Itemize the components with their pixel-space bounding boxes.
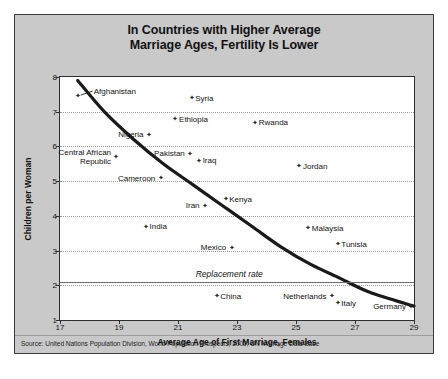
point-label-jordan: Jordan xyxy=(303,161,327,170)
replacement-rate-label: Replacement rate xyxy=(196,269,263,279)
point-label-pakistan: Pakistan xyxy=(154,149,185,158)
x-tick-label-25: 25 xyxy=(292,323,301,332)
point-label-central-african-republic: Central AfricanRepublic xyxy=(59,148,111,166)
point-marker xyxy=(305,225,310,230)
point-marker xyxy=(296,163,301,168)
point-label-italy: Italy xyxy=(341,298,356,307)
replacement-rate-line xyxy=(60,282,414,283)
point-marker xyxy=(113,154,118,159)
point-marker xyxy=(143,224,148,229)
point-marker xyxy=(223,196,228,201)
chart-title-line-1: In Countries with Higher Average xyxy=(15,23,433,38)
point-label-rwanda: Rwanda xyxy=(259,118,288,127)
point-label-malaysia: Malaysia xyxy=(312,224,344,233)
point-label-mexico: Mexico xyxy=(201,243,226,252)
point-marker xyxy=(252,120,257,125)
x-tick-label-21: 21 xyxy=(174,323,183,332)
point-label-cameroon: Cameroon xyxy=(118,173,155,182)
plot-area: 12345678 17192123252729 Replacement rate… xyxy=(59,76,415,321)
point-marker xyxy=(408,304,413,309)
point-label-kenya: Kenya xyxy=(229,194,252,203)
point-marker xyxy=(229,245,234,250)
point-marker xyxy=(196,158,201,163)
point-marker xyxy=(335,300,340,305)
chart-figure: In Countries with Higher Average Marriag… xyxy=(14,14,434,354)
x-tick-mark-23 xyxy=(237,320,238,324)
point-label-india: India xyxy=(150,222,167,231)
x-tick-label-23: 23 xyxy=(233,323,242,332)
point-label-afghanistan: Afghanistan xyxy=(94,87,136,96)
x-tick-mark-27 xyxy=(355,320,356,324)
point-marker xyxy=(187,151,192,156)
point-label-iraq: Iraq xyxy=(203,156,217,165)
point-label-germany: Germany xyxy=(373,302,406,311)
x-tick-label-29: 29 xyxy=(410,323,419,332)
point-marker xyxy=(75,93,80,98)
point-label-ethiopia: Ethiopia xyxy=(179,114,208,123)
chart-title-line-2: Marriage Ages, Fertility Is Lower xyxy=(15,38,433,53)
point-marker xyxy=(214,293,219,298)
x-tick-mark-17 xyxy=(60,320,61,324)
x-tick-label-19: 19 xyxy=(115,323,124,332)
point-marker xyxy=(189,95,194,100)
chart-title: In Countries with Higher Average Marriag… xyxy=(15,23,433,53)
source-note: Source: United Nations Population Divisi… xyxy=(15,335,433,356)
x-tick-mark-29 xyxy=(414,320,415,324)
point-marker xyxy=(146,132,151,137)
point-marker xyxy=(335,241,340,246)
x-tick-label-27: 27 xyxy=(351,323,360,332)
x-tick-mark-25 xyxy=(296,320,297,324)
point-label-syria: Syria xyxy=(195,93,213,102)
point-label-china: China xyxy=(220,291,241,300)
leader-line-path xyxy=(81,91,93,95)
point-label-netherlands: Netherlands xyxy=(283,291,326,300)
source-text: Source: United Nations Population Divisi… xyxy=(21,340,319,347)
y-axis-label-text: Children per Woman xyxy=(23,157,33,240)
x-tick-mark-21 xyxy=(178,320,179,324)
x-tick-mark-19 xyxy=(119,320,120,324)
point-marker xyxy=(172,116,177,121)
point-label-tunisia: Tunisia xyxy=(341,239,367,248)
point-label-nigeria: Nigeria xyxy=(118,130,143,139)
point-marker xyxy=(329,293,334,298)
point-label-iran: Iran xyxy=(186,201,200,210)
point-marker xyxy=(202,203,207,208)
y-axis-label: Children per Woman xyxy=(21,76,35,321)
point-marker xyxy=(158,175,163,180)
x-tick-label-17: 17 xyxy=(56,323,65,332)
